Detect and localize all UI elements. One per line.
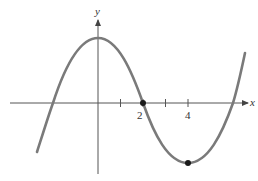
y-axis-label: y (94, 5, 100, 17)
x-axis-label: x (249, 96, 255, 108)
tick-label-4: 4 (185, 109, 191, 121)
point-x-intercept-2 (140, 100, 146, 106)
chart-canvas: y x 2 4 (0, 0, 258, 181)
cubic-curve (37, 38, 245, 163)
tick-label-2: 2 (137, 109, 143, 121)
point-local-minimum (185, 160, 191, 166)
